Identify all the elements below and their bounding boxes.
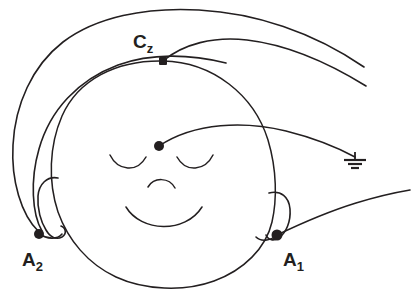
a1-lead-wire[interactable] (277, 190, 410, 235)
earth-ground-icon (344, 152, 366, 168)
head-outline (51, 61, 275, 288)
label-left-ear-base: A (22, 249, 36, 270)
a2-outer-lead-wire[interactable] (13, 9, 364, 232)
left-eye-closed-arc (110, 155, 146, 168)
label-left-ear-sub: 2 (36, 259, 43, 274)
label-left-ear-a2: A2 (22, 249, 43, 274)
label-right-ear-base: A (283, 249, 297, 270)
label-right-ear-sub: 1 (297, 259, 304, 274)
electrode-dot-icon-a1[interactable] (272, 230, 283, 241)
nose-arc (148, 180, 175, 188)
label-vertex-sub: z (147, 41, 154, 56)
a2-inner-lead-wire[interactable] (33, 56, 226, 231)
electrode-dot-icon-ground[interactable] (154, 141, 164, 151)
electrode-square-icon[interactable] (159, 57, 167, 65)
eeg-electrode-diagram: Cz A2 A1 (0, 0, 412, 300)
label-right-ear-a1: A1 (283, 249, 304, 274)
eeg-diagram-canvas: Cz A2 A1 (0, 0, 412, 300)
label-vertex-base: C (133, 31, 147, 52)
ground-lead-wire[interactable] (159, 125, 355, 157)
cz-lead-wire[interactable] (163, 39, 366, 86)
smiling-mouth-arc (126, 207, 202, 227)
electrode-dot-icon-a2[interactable] (34, 229, 44, 239)
right-eye-closed-arc (177, 155, 213, 168)
label-vertex-cz: Cz (133, 31, 154, 56)
